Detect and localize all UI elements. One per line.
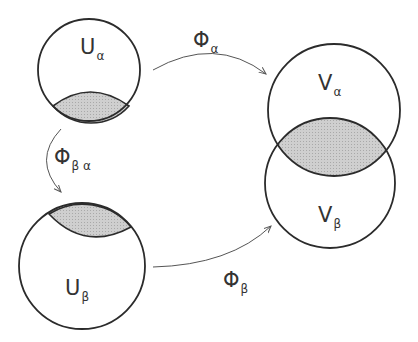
arrow-phi-beta	[153, 226, 271, 267]
overlap-region-u-alpha	[53, 92, 129, 123]
label-sub: α	[96, 49, 104, 63]
label-sub: β α	[72, 159, 91, 173]
label-main: V	[318, 71, 332, 95]
label-sub: β	[81, 290, 89, 304]
label-main: U	[65, 276, 80, 300]
label-main: V	[318, 203, 332, 227]
arrow-phi-alpha	[153, 53, 266, 74]
label-v-alpha: Vα	[318, 71, 341, 95]
overlap-region-u-beta	[49, 204, 131, 237]
set-u-beta	[19, 203, 145, 329]
label-phi-alpha: Φα	[193, 28, 218, 52]
label-sub: β	[241, 282, 249, 296]
label-sub: β	[333, 217, 341, 231]
label-v-beta: Vβ	[318, 203, 341, 227]
label-u-beta: Uβ	[65, 276, 89, 300]
label-main: Φ	[193, 28, 210, 52]
label-phi-beta: Φβ	[223, 268, 248, 292]
label-main: U	[80, 35, 95, 59]
label-phi-beta-alpha: Φβ α	[54, 145, 91, 169]
label-sub: α	[211, 42, 219, 56]
label-main: Φ	[54, 145, 71, 169]
label-u-alpha: Uα	[80, 35, 104, 59]
label-sub: α	[333, 85, 341, 99]
label-main: Φ	[223, 268, 240, 292]
